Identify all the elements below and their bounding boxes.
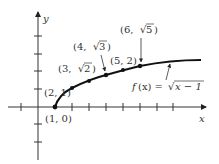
function-graph: y x (1, 0) (2, 1) (3, √ 2 ) (4, √ 3 ) (5… [0, 0, 219, 164]
arrow-function-label [166, 64, 170, 80]
svg-text:√: √ [168, 81, 175, 92]
x-axis-label: x [199, 113, 205, 124]
label-point-4-sqrt3: (4, √ 3 ) [73, 41, 111, 52]
svg-text:(x) =: (x) = [138, 81, 163, 92]
label-point-1-0: (1, 0) [45, 113, 72, 124]
svg-text:(3,: (3, [58, 63, 71, 74]
label-point-2-1: (2, 1) [44, 87, 71, 98]
y-axis-label: y [42, 13, 49, 24]
svg-text:): ) [154, 24, 158, 35]
label-point-3-sqrt2: (3, √ 2 ) [58, 63, 96, 74]
svg-text:2: 2 [84, 63, 90, 74]
svg-text:x − 1: x − 1 [175, 81, 202, 92]
svg-text:): ) [92, 63, 96, 74]
label-point-6-sqrt5: (6, √ 5 ) [120, 24, 158, 35]
svg-text:): ) [107, 41, 111, 52]
label-point-5-2: (5, 2) [110, 55, 137, 66]
svg-text:3: 3 [99, 41, 105, 52]
function-label: f (x) = √ x − 1 [131, 81, 204, 92]
svg-text:f: f [131, 81, 138, 92]
svg-text:5: 5 [146, 24, 152, 35]
arrow-point-4 [101, 55, 105, 71]
svg-text:(4,: (4, [73, 41, 86, 52]
svg-text:(6,: (6, [120, 24, 133, 35]
